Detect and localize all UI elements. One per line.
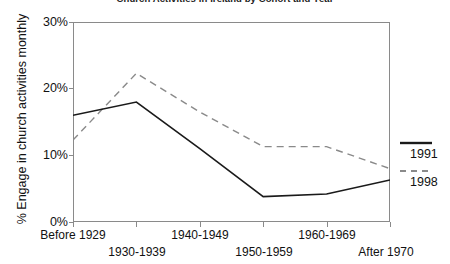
legend-item-1998: 1998 bbox=[400, 166, 450, 194]
legend-label-1998: 1998 bbox=[410, 175, 438, 189]
x-axis-label-before-1929: Before 1929 bbox=[9, 228, 137, 242]
x-tick-mark-1 bbox=[136, 222, 137, 227]
legend-swatch-dashed-icon bbox=[400, 169, 432, 173]
x-axis-label-1930-1939: 1930-1939 bbox=[73, 245, 201, 259]
x-axis-label-1940-1949: 1940-1949 bbox=[136, 228, 264, 242]
chart-legend: 1991 1998 bbox=[400, 138, 450, 194]
x-tick-mark-3 bbox=[263, 222, 264, 227]
legend-label-1991: 1991 bbox=[410, 147, 438, 161]
series-line-1991 bbox=[73, 102, 390, 197]
y-tick-label-10: 10% bbox=[28, 149, 68, 162]
chart-page: Church Activities in Ireland by Cohort a… bbox=[0, 0, 450, 264]
x-tick-mark-2 bbox=[200, 222, 201, 227]
y-tick-label-0: 0% bbox=[28, 216, 68, 229]
legend-item-1991: 1991 bbox=[400, 138, 450, 166]
plot-area bbox=[73, 22, 390, 222]
series-line-1998 bbox=[73, 73, 390, 168]
y-axis-tick-labels: 30% 20% 10% 0% bbox=[24, 0, 68, 264]
x-axis-label-1960-1969: 1960-1969 bbox=[263, 228, 391, 242]
legend-swatch-solid-icon bbox=[400, 141, 432, 145]
x-axis-label-after-1970: After 1970 bbox=[327, 245, 445, 259]
x-tick-mark-4 bbox=[327, 222, 328, 227]
x-tick-mark-0 bbox=[73, 222, 74, 227]
x-axis-label-1950-1959: 1950-1959 bbox=[200, 245, 328, 259]
y-tick-label-30: 30% bbox=[28, 16, 68, 29]
x-tick-mark-5 bbox=[390, 222, 391, 227]
y-tick-label-20: 20% bbox=[28, 82, 68, 95]
